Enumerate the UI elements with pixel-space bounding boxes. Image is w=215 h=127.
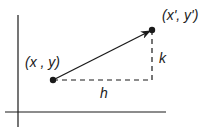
vertical-component-label: k <box>159 50 167 66</box>
start-point <box>50 77 56 83</box>
end-point <box>149 27 155 33</box>
translation-diagram: (x , y) (x', y') k h <box>0 0 215 127</box>
start-point-label: (x , y) <box>25 54 60 70</box>
end-point-label: (x', y') <box>162 7 198 23</box>
horizontal-component-label: h <box>100 85 108 101</box>
translation-vector-arrow <box>53 31 150 80</box>
